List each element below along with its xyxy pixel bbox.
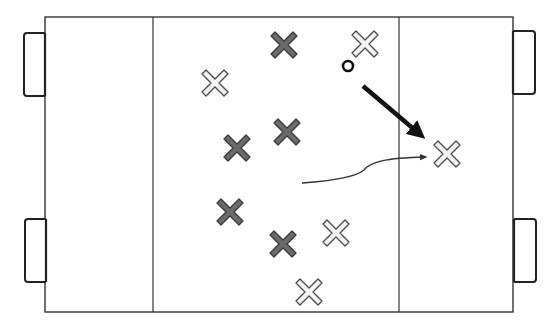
left-bottom-goal-icon (25, 219, 46, 282)
tactical-diagram (0, 0, 560, 329)
ball-icon (343, 61, 353, 71)
right-top-goal-icon (513, 31, 535, 94)
field-boundary (45, 17, 513, 312)
field (45, 17, 513, 312)
left-top-goal-icon (24, 33, 45, 96)
right-bottom-goal-icon (514, 219, 536, 282)
ball-layer (343, 61, 353, 71)
diagram-canvas (0, 0, 560, 329)
